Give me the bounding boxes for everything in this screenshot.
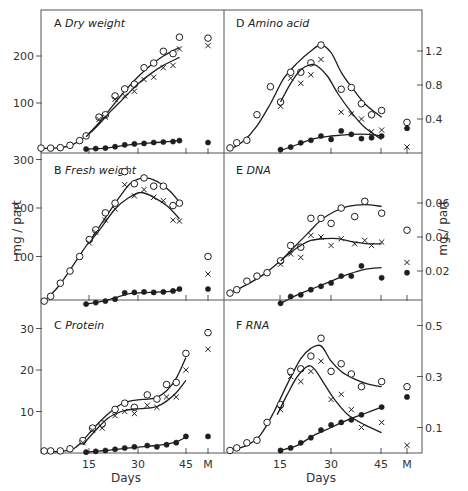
filled-circle-marker: [177, 138, 182, 143]
open-circle-marker: [318, 42, 325, 49]
x-tick-label: 15: [273, 458, 287, 471]
filled-circle-marker: [141, 141, 146, 146]
open-circle-marker: [38, 145, 45, 152]
filled-circle-marker: [154, 444, 159, 449]
filled-circle-marker: [318, 427, 323, 432]
open-circle-marker: [205, 253, 212, 260]
y-tick-label: 30: [20, 323, 34, 336]
filled-circle-marker: [93, 300, 98, 305]
filled-circle-marker: [288, 294, 293, 299]
cross-marker: [122, 182, 127, 187]
x-tick-label: 30: [131, 458, 145, 471]
y-tick-label: 200: [13, 50, 34, 63]
open-circle-marker: [254, 111, 261, 118]
filled-circle-marker: [170, 288, 175, 293]
open-circle-marker: [404, 227, 411, 234]
filled-circle-marker: [329, 137, 334, 142]
open-circle-marker: [404, 383, 411, 390]
filled-circle-marker: [318, 133, 323, 138]
y-tick-label: 1.2: [425, 45, 443, 58]
open-circle-marker: [67, 142, 74, 149]
filled-circle-marker: [151, 140, 156, 145]
filled-circle-marker: [151, 290, 156, 295]
open-circle-marker: [205, 329, 212, 336]
filled-circle-marker: [278, 448, 283, 453]
open-circle-marker: [163, 381, 170, 388]
series-open-circles: [227, 335, 411, 454]
open-circle-marker: [67, 446, 74, 453]
filled-circle-marker: [205, 140, 210, 145]
y-tick-label: 300: [13, 154, 34, 167]
open-circle-marker: [287, 242, 294, 249]
y-tick-label: 20: [20, 364, 34, 377]
filled-circle-marker: [359, 263, 364, 268]
y-tick-label: 0.4: [425, 113, 443, 126]
cross-marker: [349, 407, 354, 412]
cross-marker: [362, 238, 367, 243]
filled-circle-marker: [83, 146, 88, 151]
open-circle-marker: [264, 269, 271, 276]
open-circle-marker: [112, 200, 119, 207]
cross-marker: [132, 411, 137, 416]
cross-marker: [404, 260, 409, 265]
open-circle-marker: [176, 34, 183, 41]
open-circle-marker: [338, 86, 345, 93]
open-circle-marker: [308, 215, 315, 222]
cross-marker: [329, 397, 334, 402]
cross-marker: [164, 394, 169, 399]
filled-circle-marker: [93, 146, 98, 151]
filled-circle-marker: [349, 417, 354, 422]
fitted-curve: [277, 366, 381, 433]
open-circle-marker: [378, 378, 385, 385]
open-circle-marker: [227, 145, 234, 152]
open-circle-marker: [244, 440, 251, 447]
panel-f-rna: F RNA0.10.30.5153045M: [227, 319, 443, 471]
series-filled-circles: [83, 138, 210, 152]
open-circle-marker: [173, 379, 180, 386]
open-circle-marker: [267, 83, 274, 90]
filled-circle-marker: [132, 290, 137, 295]
open-circle-marker: [227, 290, 234, 297]
filled-circle-marker: [339, 420, 344, 425]
open-circle-marker: [362, 198, 369, 205]
x-axis-title-right: Days: [306, 471, 336, 485]
cross-marker: [205, 347, 210, 352]
cross-marker: [339, 110, 344, 115]
filled-circle-marker: [308, 138, 313, 143]
open-circle-marker: [244, 137, 251, 144]
series-filled-circles: [278, 126, 410, 152]
open-circle-marker: [264, 419, 271, 426]
panel-title: F RNA: [236, 319, 269, 332]
open-circle-marker: [160, 48, 167, 55]
x-tick-label: 15: [82, 458, 96, 471]
filled-circle-marker: [170, 139, 175, 144]
fitted-curve: [230, 205, 382, 293]
open-circle-marker: [378, 107, 385, 114]
x-tick-label: 30: [324, 458, 338, 471]
cross-marker: [329, 243, 334, 248]
filled-circle-marker: [404, 270, 409, 275]
open-circle-marker: [83, 133, 90, 140]
open-circle-marker: [254, 273, 261, 280]
open-circle-marker: [170, 50, 177, 57]
filled-circle-marker: [318, 284, 323, 289]
filled-circle-marker: [339, 128, 344, 133]
open-circle-marker: [233, 140, 240, 147]
filled-circle-marker: [288, 144, 293, 149]
cross-marker: [318, 359, 323, 364]
filled-circle-marker: [132, 141, 137, 146]
open-circle-marker: [112, 93, 119, 100]
open-circle-marker: [121, 86, 128, 93]
filled-circle-marker: [288, 445, 293, 450]
open-circle-marker: [76, 137, 83, 144]
fitted-curve: [41, 48, 180, 149]
filled-circle-marker: [298, 292, 303, 297]
filled-circle-marker: [132, 444, 137, 449]
y-axis-title-left: mg / part: [10, 200, 24, 256]
fitted-curve: [83, 380, 186, 444]
panel-d-amino-acid: D Amino acid0.40.81.2: [227, 17, 443, 154]
open-circle-marker: [378, 210, 385, 217]
cross-marker: [298, 81, 303, 86]
open-circle-marker: [205, 35, 212, 42]
open-circle-marker: [254, 437, 261, 444]
